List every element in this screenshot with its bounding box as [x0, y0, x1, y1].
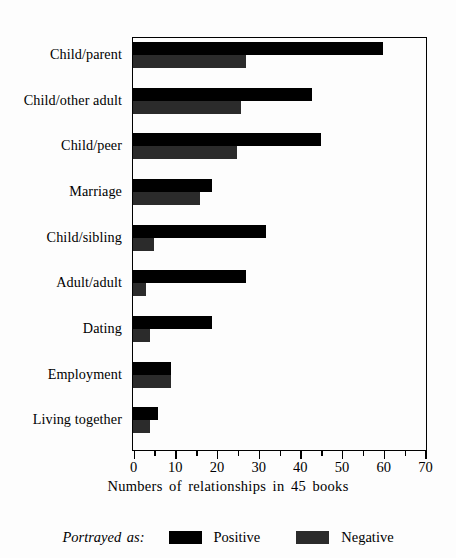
- legend-entry: Negative: [296, 529, 393, 546]
- bar-positive: [133, 133, 321, 146]
- bar-group: [133, 266, 426, 312]
- bar-group: [133, 358, 426, 404]
- bar-group: [133, 84, 426, 130]
- x-tick-minor: [280, 451, 281, 456]
- bar-positive: [133, 179, 212, 192]
- bar-group: [133, 403, 426, 449]
- x-tick-label: 50: [335, 459, 350, 476]
- category-label: Child/peer: [0, 138, 122, 152]
- bar-positive: [133, 88, 312, 101]
- bar-group: [133, 175, 426, 221]
- bar-negative: [133, 283, 146, 296]
- category-label: Marriage: [0, 184, 122, 198]
- legend-swatch-positive: [169, 531, 202, 544]
- x-axis-tick-labels: 010203040506070: [132, 459, 427, 479]
- x-tick-major: [342, 451, 343, 459]
- legend-entry: Positive: [169, 529, 261, 546]
- bar-group: [133, 38, 426, 84]
- x-tick-label: 60: [376, 459, 391, 476]
- bar-group: [133, 221, 426, 267]
- x-tick-major: [175, 451, 176, 459]
- x-tick-major: [384, 451, 385, 459]
- bar-negative: [133, 375, 171, 388]
- x-tick-label: 40: [293, 459, 308, 476]
- category-label: Adult/adult: [0, 275, 122, 289]
- bar-negative: [133, 329, 150, 342]
- x-tick-label: 20: [210, 459, 225, 476]
- category-axis-labels: Child/parentChild/other adultChild/peerM…: [0, 37, 128, 451]
- x-tick-minor: [321, 451, 322, 456]
- legend-label: Positive: [214, 529, 261, 546]
- bar-negative: [133, 192, 200, 205]
- category-label: Child/other adult: [0, 93, 122, 107]
- x-tick-major: [425, 451, 426, 459]
- x-tick-minor: [363, 451, 364, 456]
- x-tick-label: 70: [418, 459, 433, 476]
- bar-negative: [133, 101, 241, 114]
- plot-frame: [132, 37, 427, 451]
- category-label: Living together: [0, 412, 122, 426]
- legend-swatch-negative: [296, 531, 329, 544]
- x-tick-major: [300, 451, 301, 459]
- bar-positive: [133, 42, 383, 55]
- bar-negative: [133, 146, 237, 159]
- category-label: Child/parent: [0, 47, 122, 61]
- x-tick-major: [134, 451, 135, 459]
- x-tick-major: [259, 451, 260, 459]
- chart-legend: Portrayed as: PositiveNegative: [0, 524, 456, 550]
- bar-positive: [133, 270, 246, 283]
- category-label: Employment: [0, 367, 122, 381]
- bar-positive: [133, 316, 212, 329]
- bar-chart-figure: Child/parentChild/other adultChild/peerM…: [0, 0, 456, 558]
- plot-area: [133, 38, 426, 450]
- bar-negative: [133, 420, 150, 433]
- category-label: Child/sibling: [0, 230, 122, 244]
- x-tick-label: 10: [168, 459, 183, 476]
- legend-label: Negative: [341, 529, 393, 546]
- x-tick-label: 30: [251, 459, 266, 476]
- bar-negative: [133, 55, 246, 68]
- x-tick-minor: [154, 451, 155, 456]
- bar-positive: [133, 225, 266, 238]
- category-label: Dating: [0, 321, 122, 335]
- bar-group: [133, 129, 426, 175]
- x-tick-label: 0: [130, 459, 137, 476]
- bar-group: [133, 312, 426, 358]
- bar-negative: [133, 238, 154, 251]
- legend-entries: PositiveNegative: [169, 529, 394, 546]
- x-tick-major: [217, 451, 218, 459]
- bar-positive: [133, 362, 171, 375]
- x-axis-title: Numbers of relationships in 45 books: [0, 478, 456, 495]
- x-tick-minor: [238, 451, 239, 456]
- x-tick-minor: [196, 451, 197, 456]
- bar-positive: [133, 407, 158, 420]
- legend-title: Portrayed as:: [62, 529, 144, 546]
- x-tick-minor: [405, 451, 406, 456]
